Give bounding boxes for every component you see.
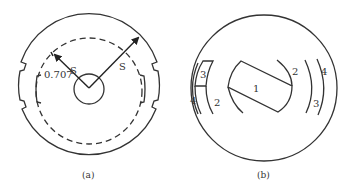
label-region-4-left: 4	[190, 95, 196, 106]
panel-a	[19, 14, 160, 155]
label-region-1: 1	[253, 83, 259, 94]
outer-boundary-with-notches	[19, 14, 160, 155]
dashed-circle-tick	[51, 52, 53, 56]
region-2-left-arc	[206, 86, 213, 114]
label-region-2-right: 2	[292, 66, 298, 77]
radius-arrow-right	[89, 38, 138, 88]
label-s-left: S	[70, 65, 77, 76]
region-1-shape	[228, 61, 292, 112]
label-region-3-left: 3	[200, 69, 206, 80]
panel-b	[191, 15, 337, 161]
caption-a: (a)	[82, 170, 94, 180]
caption-b: (b)	[257, 170, 270, 180]
label-s-right: S	[119, 61, 126, 72]
region-3-right-arc	[305, 60, 312, 113]
label-0707: 0.707	[44, 69, 73, 80]
figure-canvas: 0.707 S S (a) 1 2 2 3 4 3 4 (b)	[0, 0, 351, 186]
left-slot	[36, 75, 41, 103]
label-region-3-right: 3	[313, 98, 319, 109]
label-region-4-right: 4	[321, 66, 327, 77]
label-region-2-left: 2	[214, 97, 220, 108]
outer-boundary-b	[191, 15, 337, 161]
